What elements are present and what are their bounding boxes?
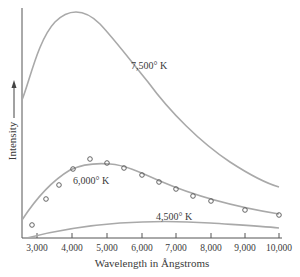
tick-label: 7,000 [165,243,187,253]
y-axis-label: Intensity [6,121,18,160]
tick-label: 10,000 [266,243,292,253]
blackbody-chart: 3,000 4,000 5,000 6,000 7,000 8,000 9,00… [0,0,300,277]
tick-label: 3,000 [26,243,48,253]
up-arrow-icon [12,80,17,118]
x-tick-labels: 3,000 4,000 5,000 6,000 7,000 8,000 9,00… [26,243,292,253]
tick-label: 6,000 [131,243,153,253]
tick-label: 8,000 [200,243,222,253]
label-6000k: 6,000° K [73,175,110,186]
curve-6000k [22,164,279,220]
label-4500k: 4,500° K [156,211,193,222]
x-ticks [37,233,279,238]
curve-4500k [27,222,279,239]
tick-label: 4,000 [61,243,83,253]
curve-7500k [22,12,279,187]
tick-label: 5,000 [96,243,118,253]
x-axis-label: Wavelength in Ångstroms [95,257,210,269]
label-7500k: 7,500° K [131,60,168,71]
tick-label: 9,000 [234,243,256,253]
